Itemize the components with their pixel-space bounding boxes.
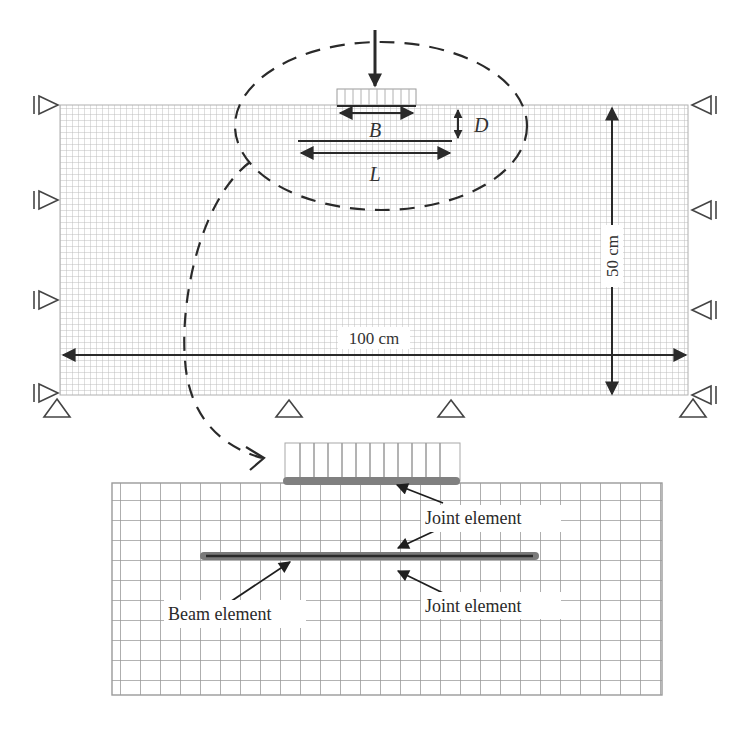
roller-support-icon xyxy=(692,301,716,319)
joint-element-label-upper: Joint element xyxy=(425,508,521,528)
pin-support-icon xyxy=(680,399,706,417)
roller-support-icon xyxy=(34,384,58,402)
pin-support-icon xyxy=(44,399,70,417)
height-dimension-label: 50 cm xyxy=(603,235,622,277)
left-roller-supports xyxy=(34,96,58,402)
roller-support-icon xyxy=(34,96,58,114)
detail-mesh xyxy=(112,483,662,695)
detail-view: Joint element Joint element Beam element xyxy=(112,443,662,695)
roller-support-icon xyxy=(34,191,58,209)
roller-support-icon xyxy=(692,201,716,219)
finite-element-diagram: B L D 50 cm 100 cm xyxy=(0,0,750,729)
footing-width-label: B xyxy=(369,119,381,141)
pin-support-icon xyxy=(276,400,302,417)
soil-mesh xyxy=(60,105,688,395)
joint-element-label-lower: Joint element xyxy=(425,596,521,616)
detail-footing xyxy=(285,443,460,481)
embedment-depth-label: D xyxy=(473,114,489,136)
pin-support-icon xyxy=(438,400,464,417)
right-roller-supports xyxy=(692,96,716,404)
reinforcement-length-label: L xyxy=(368,163,380,185)
beam-element-label: Beam element xyxy=(168,604,271,624)
roller-support-icon xyxy=(34,291,58,309)
width-dimension-label: 100 cm xyxy=(349,329,400,348)
top-model: B L D 50 cm 100 cm xyxy=(34,30,716,417)
roller-support-icon xyxy=(692,96,716,114)
bottom-pin-supports xyxy=(44,399,706,417)
footing xyxy=(337,89,416,106)
